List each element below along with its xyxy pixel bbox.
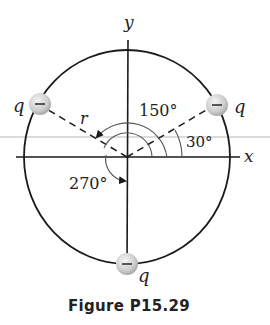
angle-arc-270 — [106, 155, 125, 181]
angle-arc-150 — [97, 123, 167, 157]
angle-label-30: 30° — [186, 133, 213, 151]
figure-caption: Figure P15.29 — [0, 297, 258, 315]
charge-label-150: q — [13, 95, 25, 116]
angle-label-150: 150° — [139, 101, 178, 120]
angle-arc-30 — [175, 130, 182, 157]
charge-label-270: q — [138, 265, 150, 286]
charge-150 — [29, 93, 51, 115]
y-axis-label: y — [123, 12, 134, 32]
charge-30 — [206, 94, 228, 116]
x-axis-label: x — [244, 146, 254, 166]
charge-label-30: q — [234, 96, 246, 117]
angle-label-270: 270° — [69, 174, 108, 193]
radius-label: r — [80, 109, 89, 128]
charges-on-circle-diagram: y x r 150° 30° 270° q q q — [0, 0, 270, 325]
charge-270 — [116, 253, 138, 275]
